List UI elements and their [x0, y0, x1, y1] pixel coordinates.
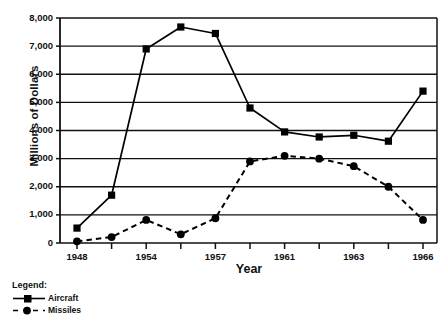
- data-point-marker: [108, 192, 115, 199]
- data-point-marker: [315, 155, 323, 163]
- square-marker-solid-line-icon: [12, 293, 46, 304]
- y-axis-tick-label: 8,000: [0, 12, 53, 23]
- y-axis-tick-label: 4,000: [0, 124, 53, 135]
- plot-area: [0, 0, 448, 260]
- circle-marker-dashed-line-icon: [12, 305, 46, 316]
- data-point-marker: [108, 233, 116, 241]
- data-point-marker: [419, 216, 427, 224]
- y-axis-tick-label: 1,000: [0, 208, 53, 219]
- chart-figure: Millions of Dollars 01,0002,0003,0004,00…: [0, 0, 448, 326]
- x-axis-tick-label: 1966: [401, 251, 445, 262]
- data-point-marker: [281, 152, 289, 160]
- legend-item-missiles: Missiles: [12, 305, 81, 316]
- data-point-marker: [350, 132, 357, 139]
- series-line: [77, 27, 423, 228]
- y-axis-tick-label: 2,000: [0, 180, 53, 191]
- data-point-marker: [419, 88, 426, 95]
- data-point-marker: [385, 138, 392, 145]
- data-point-marker: [73, 224, 80, 231]
- y-axis-tick-label: 5,000: [0, 96, 53, 107]
- data-point-marker: [385, 183, 393, 191]
- y-axis-tick-label: 3,000: [0, 152, 53, 163]
- x-axis-tick-label: 1961: [263, 251, 307, 262]
- x-axis-tick-label: 1957: [193, 251, 237, 262]
- series-aircraft: [73, 23, 426, 231]
- data-point-marker: [212, 30, 219, 37]
- y-axis-tick-label: 7,000: [0, 40, 53, 51]
- data-point-marker: [212, 214, 220, 222]
- data-point-marker: [246, 158, 254, 166]
- data-point-marker: [177, 230, 185, 238]
- x-axis-tick-label: 1954: [124, 251, 168, 262]
- data-point-marker: [316, 133, 323, 140]
- x-axis-ticks: [77, 243, 423, 249]
- data-point-marker: [73, 237, 81, 245]
- chart-legend: Legend: Aircraft Missiles: [12, 281, 81, 317]
- legend-item-aircraft: Aircraft: [12, 293, 81, 304]
- data-point-marker: [142, 216, 150, 224]
- data-point-marker: [143, 45, 150, 52]
- x-axis-title: Year: [60, 262, 438, 276]
- series-line: [77, 156, 423, 242]
- x-axis-tick-label: 1963: [332, 251, 376, 262]
- data-point-marker: [246, 104, 253, 111]
- legend-label-missiles: Missiles: [48, 306, 81, 315]
- y-axis-tick-label: 6,000: [0, 68, 53, 79]
- data-point-marker: [281, 128, 288, 135]
- data-point-marker: [350, 162, 358, 170]
- y-axis-tick-label: 0: [0, 237, 53, 248]
- legend-title: Legend:: [12, 281, 81, 290]
- series-missiles: [73, 152, 427, 245]
- x-axis-tick-label: 1948: [55, 251, 99, 262]
- gridlines: [60, 18, 437, 243]
- data-point-marker: [177, 23, 184, 30]
- legend-label-aircraft: Aircraft: [48, 294, 78, 303]
